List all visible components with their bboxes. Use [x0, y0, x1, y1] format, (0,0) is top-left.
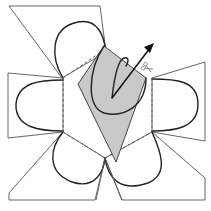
right-tab: [152, 62, 205, 141]
fold-net-diagram: [0, 0, 211, 211]
scissors-icon: [141, 62, 154, 74]
